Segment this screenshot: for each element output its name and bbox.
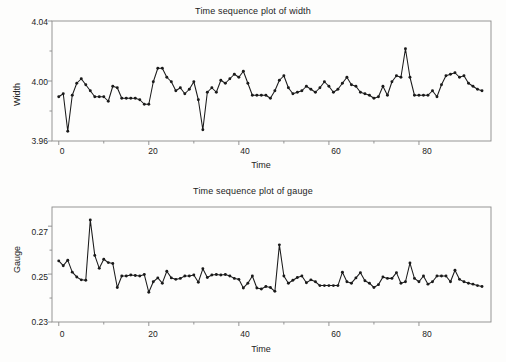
figure-page: Time sequence plot of width Width 4.04 4… xyxy=(0,0,506,362)
chart-panel-width: Time sequence plot of width Width 4.04 4… xyxy=(0,0,506,181)
plot-area-width xyxy=(0,0,506,181)
chart-panel-gauge: Time sequence plot of gauge Gauge 0.27 0… xyxy=(0,181,506,362)
plot-area-gauge xyxy=(0,181,506,362)
